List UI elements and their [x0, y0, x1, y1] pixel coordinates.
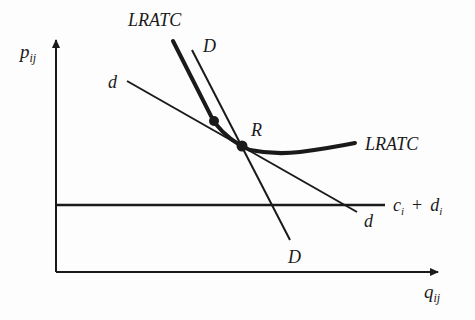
- y-axis-label: pij: [18, 41, 37, 65]
- d-right-label: d: [364, 211, 374, 231]
- D-top-label: D: [202, 36, 216, 56]
- d-left-label: d: [108, 72, 118, 92]
- lratc-curve: [173, 41, 355, 153]
- lratc-right-label: LRATC: [364, 134, 419, 154]
- tangency-dot: [209, 116, 219, 126]
- lratc-top-label: LRATC: [127, 10, 182, 30]
- point-R: [237, 141, 248, 152]
- diagram-canvas: pij qij LRATC LRATC D D d d R ci+di: [0, 0, 475, 320]
- D-bottom-label: D: [287, 247, 301, 267]
- x-axis-label: qij: [424, 281, 441, 305]
- economics-diagram: pij qij LRATC LRATC D D d d R ci+di: [0, 0, 475, 320]
- R-label: R: [250, 120, 262, 140]
- cost-line-label: ci+di: [393, 195, 442, 217]
